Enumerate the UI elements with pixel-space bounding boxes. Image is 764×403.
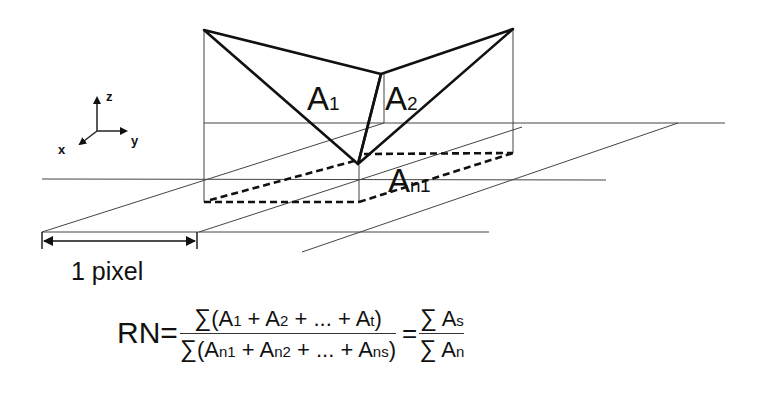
axis-y-label: y xyxy=(131,134,138,147)
rn-formula: RN= ∑(A1 + A2 + ... + At) ∑(An1 + An2 + … xyxy=(117,304,464,363)
pixel-scale-arrow xyxy=(42,232,197,249)
axes-icon xyxy=(80,98,126,144)
axis-x-label: x xyxy=(58,143,65,156)
label-a1-main: A xyxy=(307,80,329,117)
formula-rhs-numerator: ∑ As xyxy=(420,304,464,332)
fraction-bar xyxy=(419,333,464,335)
label-a1: A1 xyxy=(307,82,339,115)
label-a2-main: A xyxy=(385,80,407,117)
formula-denominator: ∑(An1 + An2 + ... + Ans) xyxy=(180,335,396,363)
fraction-bar xyxy=(180,333,396,335)
pixel-scale-label: 1 pixel xyxy=(71,259,143,284)
label-an1-sub: n1 xyxy=(410,175,430,196)
formula-simplified-fraction: ∑ As ∑ An xyxy=(419,304,464,363)
triangle-a1 xyxy=(204,30,381,164)
formula-numerator: ∑(A1 + A2 + ... + At) xyxy=(194,304,382,332)
triangle-a2 xyxy=(358,29,513,164)
formula-equals: = xyxy=(402,318,417,349)
label-an1: An1 xyxy=(388,164,430,197)
axis-z-label: z xyxy=(106,90,113,103)
label-a2: A2 xyxy=(385,82,417,115)
formula-rhs-denominator: ∑ An xyxy=(419,335,464,363)
label-a2-sub: 2 xyxy=(407,93,417,114)
surface-triangles xyxy=(204,29,513,164)
label-an1-main: A xyxy=(388,162,410,199)
formula-lhs: RN= xyxy=(117,316,178,350)
formula-main-fraction: ∑(A1 + A2 + ... + At) ∑(An1 + An2 + ... … xyxy=(180,304,396,363)
label-a1-sub: 1 xyxy=(329,93,339,114)
